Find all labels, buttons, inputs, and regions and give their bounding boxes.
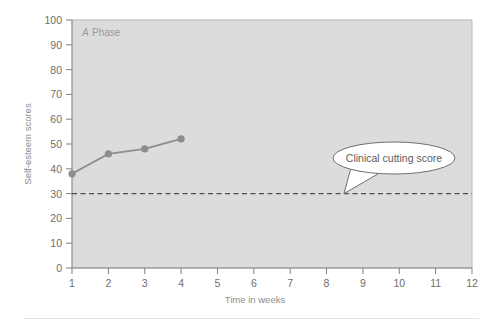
data-point-week-3 — [141, 145, 148, 152]
x-tick-label-9: 9 — [360, 277, 366, 289]
y-tick-label-30: 30 — [50, 188, 62, 200]
x-tick-label-5: 5 — [215, 277, 221, 289]
y-tick-label-20: 20 — [50, 212, 62, 224]
y-axis-ticks — [66, 20, 72, 268]
data-point-week-1 — [68, 170, 75, 177]
y-tick-label-0: 0 — [56, 262, 62, 274]
y-axis-title: Self-esteem scores — [22, 103, 33, 185]
figure-bottom-rule — [24, 318, 479, 319]
y-tick-label-80: 80 — [50, 64, 62, 76]
x-tick-label-2: 2 — [105, 277, 111, 289]
chart-figure: 100 90 80 70 60 50 40 30 20 10 0 Self-es… — [0, 0, 499, 327]
x-tick-label-4: 4 — [178, 277, 184, 289]
y-tick-label-40: 40 — [50, 163, 62, 175]
x-tick-label-10: 10 — [393, 277, 405, 289]
x-tick-label-6: 6 — [251, 277, 257, 289]
x-tick-label-11: 11 — [430, 277, 441, 289]
x-tick-label-8: 8 — [324, 277, 330, 289]
y-tick-label-50: 50 — [50, 138, 62, 150]
x-tick-label-7: 7 — [287, 277, 293, 289]
phase-label-letter: A — [81, 27, 89, 38]
x-tick-label-12: 12 — [466, 277, 478, 289]
x-axis-title: Time in weeks — [225, 294, 286, 305]
data-point-week-4 — [178, 135, 185, 142]
y-tick-label-70: 70 — [50, 88, 62, 100]
phase-label-word: Phase — [92, 27, 121, 38]
x-axis-ticks — [72, 268, 472, 274]
x-tick-label-1: 1 — [69, 277, 75, 289]
y-tick-label-10: 10 — [50, 237, 62, 249]
self-esteem-line-chart: 100 90 80 70 60 50 40 30 20 10 0 Self-es… — [0, 0, 499, 327]
y-tick-label-100: 100 — [44, 14, 62, 26]
data-point-week-2 — [105, 150, 112, 157]
y-tick-label-60: 60 — [50, 113, 62, 125]
x-tick-label-3: 3 — [142, 277, 148, 289]
callout-label: Clinical cutting score — [346, 152, 442, 164]
y-tick-label-90: 90 — [50, 39, 62, 51]
